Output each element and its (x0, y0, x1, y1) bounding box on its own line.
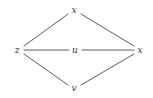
graph-diagram: zxuvx (0, 0, 153, 98)
node-label-z: z (14, 46, 21, 55)
node-label-v: v (70, 84, 77, 93)
graph-edge-z-v (24, 54, 68, 85)
edges-group (24, 14, 134, 85)
graph-edge-z-x_top (24, 14, 68, 46)
node-label-x_right: x (136, 46, 143, 55)
graph-edge-v-x_right (81, 54, 134, 85)
graph-edge-x_top-x_right (81, 14, 134, 46)
node-label-u: u (71, 46, 79, 55)
node-label-x_top: x (70, 6, 77, 15)
